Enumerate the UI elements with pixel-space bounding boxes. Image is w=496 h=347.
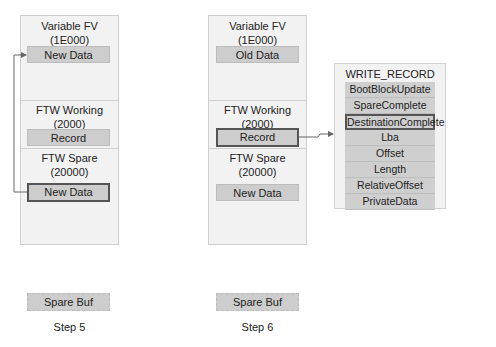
step6-record-arrow xyxy=(299,134,333,137)
step5-copy-arrow xyxy=(14,55,27,192)
connector-arrows xyxy=(0,0,496,347)
